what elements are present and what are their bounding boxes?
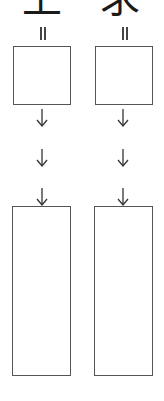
answer-box-top-right[interactable]	[95, 46, 153, 105]
arrow-down-icon	[117, 148, 129, 168]
equals-marker-left	[39, 27, 47, 40]
answer-box-bottom-right[interactable]	[94, 206, 153, 376]
arrow-down-icon	[36, 108, 48, 128]
arrow-down-icon	[117, 108, 129, 128]
arrow-down-icon	[36, 187, 48, 207]
arrow-down-icon	[117, 187, 129, 207]
answer-box-bottom-left[interactable]	[12, 206, 71, 376]
equals-marker-right	[121, 27, 129, 40]
header-char-left: 上	[22, 0, 62, 18]
arrow-down-icon	[36, 148, 48, 168]
answer-box-top-left[interactable]	[13, 46, 71, 105]
header-char-right: 求	[100, 0, 140, 18]
